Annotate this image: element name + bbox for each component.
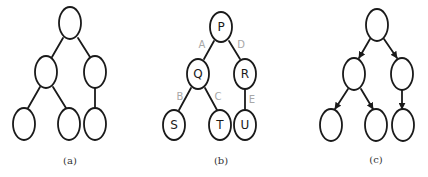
tree-node-root	[59, 7, 81, 39]
tree-node-right	[391, 58, 413, 90]
tree-node-left	[343, 58, 365, 90]
tree-node-s: S	[163, 110, 185, 140]
panel-a: (a)	[13, 7, 106, 166]
tree-node-r: R	[234, 59, 256, 89]
edge-label-c: C	[215, 91, 222, 102]
arrow-root-left	[359, 39, 370, 58]
edge-left-rightleaf	[53, 87, 66, 108]
edge-root-left	[52, 38, 63, 57]
tree-node-left	[35, 56, 57, 88]
node-label-t: T	[215, 118, 224, 132]
panel-b: A D B C E P Q R S	[163, 12, 256, 166]
tree-node-left-right	[58, 108, 80, 140]
tree-node-q: Q	[187, 59, 209, 89]
panel-a-nodes	[13, 7, 106, 140]
node-label-r: R	[241, 67, 249, 81]
tree-node-t: T	[209, 110, 231, 140]
edge-p-q	[204, 41, 214, 59]
edge-label-b: B	[177, 91, 184, 102]
panel-c-nodes	[320, 9, 414, 141]
arrow-left-leftleaf	[335, 89, 348, 109]
panel-b-nodes: P Q R S T U	[163, 12, 256, 140]
edge-left-leftleaf	[28, 87, 40, 108]
tree-node-left-left	[320, 109, 342, 141]
tree-node-right-left	[84, 108, 106, 140]
tree-node-p: P	[210, 12, 232, 42]
node-label-s: S	[170, 118, 178, 132]
tree-node-right-left	[392, 109, 414, 141]
tree-node-left-right	[365, 109, 387, 141]
edge-root-right	[78, 38, 90, 57]
edge-label-e: E	[249, 94, 255, 105]
node-label-u: U	[241, 118, 250, 132]
edge-label-d: D	[237, 39, 245, 50]
tree-node-u: U	[234, 110, 256, 140]
tree-figure: (a) A D B C E P Q	[0, 0, 428, 177]
arrow-root-right	[384, 39, 397, 58]
panel-c: (c)	[320, 9, 414, 165]
panel-b-caption: (b)	[214, 155, 228, 166]
node-label-q: Q	[193, 67, 202, 81]
panel-a-caption: (a)	[63, 155, 77, 166]
tree-node-root	[366, 9, 388, 41]
tree-node-left-left	[13, 108, 35, 140]
panel-c-caption: (c)	[369, 154, 383, 165]
node-label-p: P	[217, 20, 224, 34]
tree-node-right	[84, 56, 106, 88]
edge-label-a: A	[199, 39, 206, 50]
arrow-left-rightleaf	[361, 89, 373, 109]
